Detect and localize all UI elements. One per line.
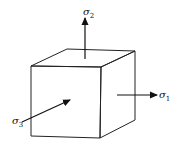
- stress-cube-diagram: σ2 σ1 σ3: [0, 0, 174, 144]
- sigma1-label: σ1: [159, 89, 170, 103]
- cube: [31, 49, 135, 138]
- sigma2-label: σ2: [83, 6, 94, 20]
- sigma3-label: σ3: [12, 115, 23, 129]
- sigma3-arrow-icon: [22, 100, 70, 122]
